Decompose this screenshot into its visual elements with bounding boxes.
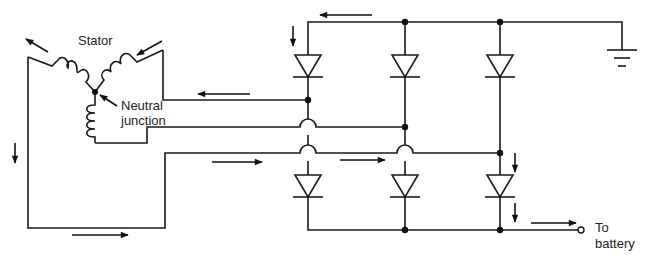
bottom-rail xyxy=(308,197,578,230)
diode-top-2 xyxy=(390,55,420,77)
ground-icon xyxy=(607,50,637,66)
diode-top-1 xyxy=(293,55,323,77)
output-label-line1: To xyxy=(595,220,609,235)
stator: Stator Neutral junction xyxy=(28,33,166,143)
junction-dots xyxy=(305,19,503,233)
output-terminal-icon xyxy=(578,227,584,233)
neutral-pointer-arrow xyxy=(100,95,117,106)
alternator-circuit-diagram: Stator Neutral junction xyxy=(0,0,648,263)
stator-winding-c xyxy=(87,92,95,143)
diode-bottom-1 xyxy=(293,175,323,197)
neutral-label-line1: Neutral xyxy=(121,98,163,113)
stator-winding-b xyxy=(95,50,163,92)
neutral-label-line2: junction xyxy=(120,113,166,128)
arrow-stator-out xyxy=(26,39,48,52)
diode-bottom-3 xyxy=(485,175,515,197)
phase-b-wire xyxy=(163,50,308,100)
neutral-junction-dot xyxy=(92,89,98,95)
top-rail xyxy=(308,22,622,55)
diode-top-3 xyxy=(485,55,515,77)
current-flow-arrows xyxy=(15,15,576,235)
diode-bottom-2 xyxy=(390,175,420,197)
stator-label: Stator xyxy=(78,33,113,48)
output-label-line2: battery xyxy=(595,236,635,251)
stator-winding-a xyxy=(28,57,95,92)
